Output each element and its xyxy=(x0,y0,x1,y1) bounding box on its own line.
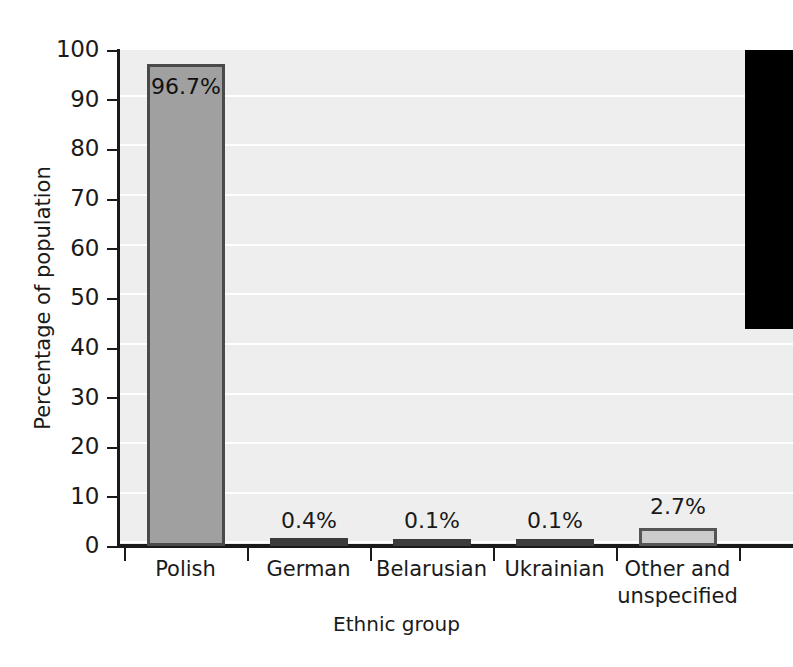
y-axis-tick xyxy=(107,50,118,52)
y-axis-tick xyxy=(107,348,118,350)
y-axis-tick xyxy=(107,496,118,498)
bar-german xyxy=(270,538,348,546)
x-axis-category-label-other-and-unspecified: Other and unspecified xyxy=(616,556,739,610)
x-axis-category-label-german: German xyxy=(247,556,370,583)
bar-value-other-and-unspecified: 2.7% xyxy=(633,494,723,519)
bar-belarusian xyxy=(393,539,471,546)
y-axis-tick-label: 50 xyxy=(70,284,99,310)
bar-polish xyxy=(147,64,225,546)
y-axis-tick-label: 60 xyxy=(70,235,99,261)
bar-value-ukrainian: 0.1% xyxy=(510,508,600,533)
scan-edge-artifact xyxy=(745,50,793,329)
y-axis-tick-label: 10 xyxy=(70,483,99,509)
y-axis-tick xyxy=(107,248,118,250)
x-axis-tick xyxy=(739,548,741,561)
y-axis-tick xyxy=(107,447,118,449)
x-axis-category-label-belarusian: Belarusian xyxy=(370,556,493,583)
bar-value-german: 0.4% xyxy=(264,508,354,533)
bar-value-polish: 96.7% xyxy=(141,74,231,99)
y-axis-tick-label: 100 xyxy=(56,36,99,62)
y-axis-tick xyxy=(107,298,118,300)
y-axis-tick-label: 30 xyxy=(70,384,99,410)
x-axis-category-label-polish: Polish xyxy=(124,556,247,583)
y-axis-tick xyxy=(107,397,118,399)
y-axis-tick-label: 90 xyxy=(70,86,99,112)
y-axis-title: Percentage of population xyxy=(30,50,56,546)
y-axis-tick xyxy=(107,199,118,201)
bar-ukrainian xyxy=(516,539,594,546)
bar-value-belarusian: 0.1% xyxy=(387,508,477,533)
x-axis-category-label-ukrainian: Ukrainian xyxy=(493,556,616,583)
y-axis-tick-label: 40 xyxy=(70,334,99,360)
bar-chart-figure: 100 90 80 70 60 50 40 30 20 10 0 Percent… xyxy=(0,0,793,667)
x-axis-title: Ethnic group xyxy=(0,612,793,636)
y-axis-tick xyxy=(107,546,118,548)
y-axis-tick-label: 70 xyxy=(70,185,99,211)
y-axis-tick-label: 20 xyxy=(70,433,99,459)
y-axis-tick xyxy=(107,99,118,101)
y-axis-tick-label: 0 xyxy=(85,532,99,558)
y-axis-tick xyxy=(107,149,118,151)
bar-other-and-unspecified xyxy=(639,528,717,546)
y-axis-tick-label: 80 xyxy=(70,135,99,161)
